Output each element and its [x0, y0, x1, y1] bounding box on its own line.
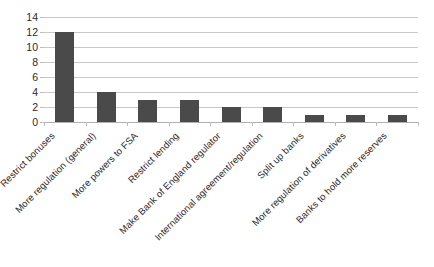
y-axis-tick-labels: 02468101214 — [12, 11, 38, 117]
y-axis-tick-mark — [40, 32, 44, 33]
y-axis-tick-mark — [40, 92, 44, 93]
y-axis-tick-label: 8 — [32, 57, 38, 68]
plot-area — [44, 17, 418, 122]
y-axis-tick-mark — [40, 62, 44, 63]
bar — [222, 107, 241, 122]
bar — [138, 100, 157, 123]
bar — [305, 115, 324, 123]
y-axis-tick-label: 12 — [26, 27, 38, 38]
y-axis-tick-mark — [40, 17, 44, 18]
y-axis-tick-label: 14 — [26, 12, 38, 23]
x-axis-category-label: Banks to hold more reserves — [294, 130, 389, 225]
x-axis-category-labels: Restrict bonusesMore regulation (general… — [0, 126, 434, 267]
y-axis-tick-label: 4 — [32, 87, 38, 98]
bar — [346, 115, 365, 123]
plot-wrapper: 02468101214 — [0, 0, 434, 132]
y-axis-tick-mark — [40, 77, 44, 78]
bar — [97, 92, 116, 122]
bar — [263, 107, 282, 122]
y-axis-tick-mark — [40, 47, 44, 48]
y-axis-tick-mark — [40, 107, 44, 108]
y-axis-tick-label: 10 — [26, 42, 38, 53]
bars-layer — [44, 17, 418, 122]
y-axis-tick-label: 2 — [32, 102, 38, 113]
bar — [55, 32, 74, 122]
bar — [388, 115, 407, 123]
bar-chart: 02468101214 Restrict bonusesMore regulat… — [0, 0, 434, 267]
x-axis-category-label: More regulation (general) — [13, 130, 98, 215]
axis-baseline — [44, 122, 418, 123]
y-axis-tick-label: 6 — [32, 72, 38, 83]
bar — [180, 100, 199, 123]
